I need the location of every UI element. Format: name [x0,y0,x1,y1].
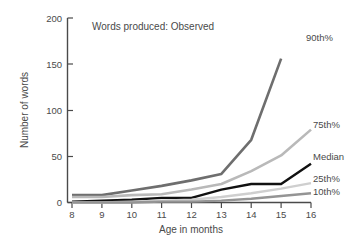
chart-title: Words produced: Observed [92,21,214,32]
y-tick-label-50: 50 [51,151,62,162]
x-tick-label-16: 16 [306,209,317,220]
x-tick-label-14: 14 [246,209,257,220]
x-tick-label-8: 8 [69,209,74,220]
series-line-90th [72,59,281,196]
x-tick-label-12: 12 [186,209,197,220]
series-line-75th [72,130,311,197]
series-label-10th: 10th% [313,186,340,197]
x-tick-label-11: 11 [157,209,167,220]
x-tick-label-9: 9 [99,209,104,220]
series-label-75th: 75th% [313,119,340,130]
chart-container: 200 150 100 50 0 8 9 10 11 12 13 14 15 1… [0,0,359,241]
x-tick-label-15: 15 [276,209,287,220]
y-tick-label-150: 150 [46,59,62,70]
y-axis-title: Number of words [19,72,30,148]
y-tick-label-0: 0 [57,197,62,208]
x-tick-label-10: 10 [127,209,138,220]
y-tick-label-200: 200 [46,13,62,24]
series-label-median: Median [313,151,344,162]
series-layer [72,59,311,203]
x-tick-label-13: 13 [216,209,227,220]
series-label-90th: 90th% [306,32,333,43]
x-axis-title: Age in months [159,224,223,235]
line-chart-plot: 200 150 100 50 0 8 9 10 11 12 13 14 15 1… [0,0,359,241]
y-tick-label-100: 100 [46,105,62,116]
series-label-25th: 25th% [313,173,340,184]
